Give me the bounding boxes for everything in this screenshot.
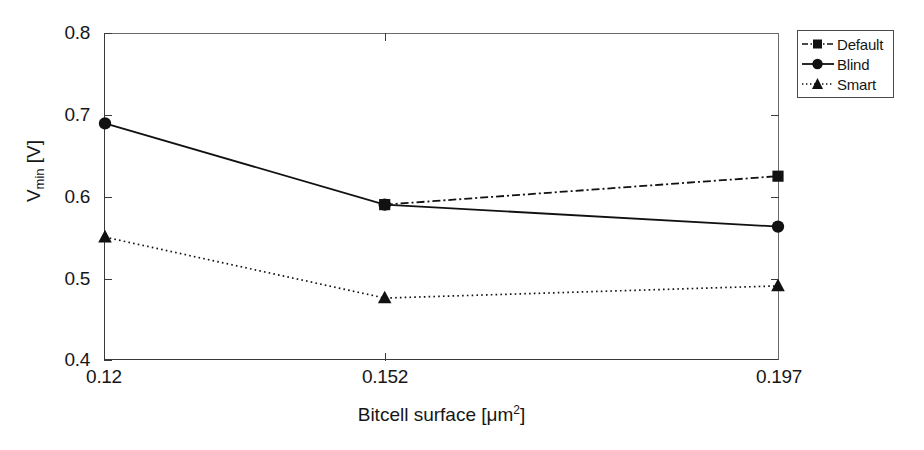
y-tick-label-2: 0.6 — [44, 186, 90, 208]
legend-sample-solid-circle-icon — [801, 55, 835, 73]
plot-area — [104, 33, 779, 360]
data-point-smart-1 — [378, 291, 392, 304]
y-tick-mark-right-0.7 — [771, 115, 779, 116]
data-point-blind-1 — [379, 198, 391, 210]
x-tick-label-1: 0.152 — [325, 366, 445, 388]
y-tick-label-1: 0.7 — [44, 104, 90, 126]
x-axis-label-superscript: 2 — [513, 403, 520, 417]
legend-label-smart: Smart — [835, 76, 876, 93]
y-axis-label: Vmin [V] — [23, 91, 45, 251]
legend: Default Blind Smart — [797, 30, 894, 98]
series-line-smart — [105, 237, 778, 298]
y-tick-mark-right-0.6 — [771, 197, 779, 198]
legend-item-smart[interactable]: Smart — [798, 74, 893, 94]
y-tick-label-3: 0.5 — [44, 268, 90, 290]
data-point-smart-0 — [98, 230, 112, 243]
x-axis-label-tail: ] — [520, 404, 525, 425]
y-tick-mark-0.6 — [104, 197, 112, 198]
y-axis-label-subscript: min — [32, 168, 47, 189]
series-line-default — [385, 176, 778, 204]
legend-label-default: Default — [835, 36, 883, 53]
data-point-smart-2 — [771, 279, 785, 292]
legend-sample-dotted-triangle-icon — [801, 75, 835, 93]
data-point-blind-2 — [772, 220, 784, 232]
legend-sample-dashdot-square-icon — [801, 35, 835, 53]
data-point-blind-0 — [99, 117, 111, 129]
x-tick-mark-top-0.152 — [385, 33, 386, 41]
data-series-layer — [105, 34, 778, 359]
y-tick-mark-0.5 — [104, 279, 112, 280]
series-line-blind — [105, 123, 778, 226]
chart-figure: 0.8 0.7 0.6 0.5 0.4 0.12 0.152 0.197 Vmi… — [0, 0, 924, 450]
data-point-default-1 — [772, 171, 783, 182]
y-tick-mark-0.7 — [104, 115, 112, 116]
series-blind — [99, 117, 784, 233]
y-tick-mark-0.4 — [104, 360, 112, 361]
series-default — [379, 171, 783, 211]
y-tick-label-0: 0.8 — [44, 22, 90, 44]
x-tick-label-0: 0.12 — [44, 366, 164, 388]
legend-label-blind: Blind — [835, 56, 869, 73]
legend-item-default[interactable]: Default — [798, 34, 893, 54]
y-tick-mark-0.8 — [104, 33, 112, 34]
y-tick-mark-right-0.5 — [771, 279, 779, 280]
x-tick-mark-0.152 — [385, 353, 386, 361]
legend-item-blind[interactable]: Blind — [798, 54, 893, 74]
y-axis-label-base: V — [23, 189, 44, 202]
x-axis-label-text: Bitcell surface [μm — [358, 404, 514, 425]
series-smart — [98, 230, 785, 304]
x-tick-label-2: 0.197 — [719, 366, 839, 388]
x-axis-label: Bitcell surface [μm2] — [104, 404, 779, 426]
y-axis-label-unit: [V] — [23, 140, 44, 169]
